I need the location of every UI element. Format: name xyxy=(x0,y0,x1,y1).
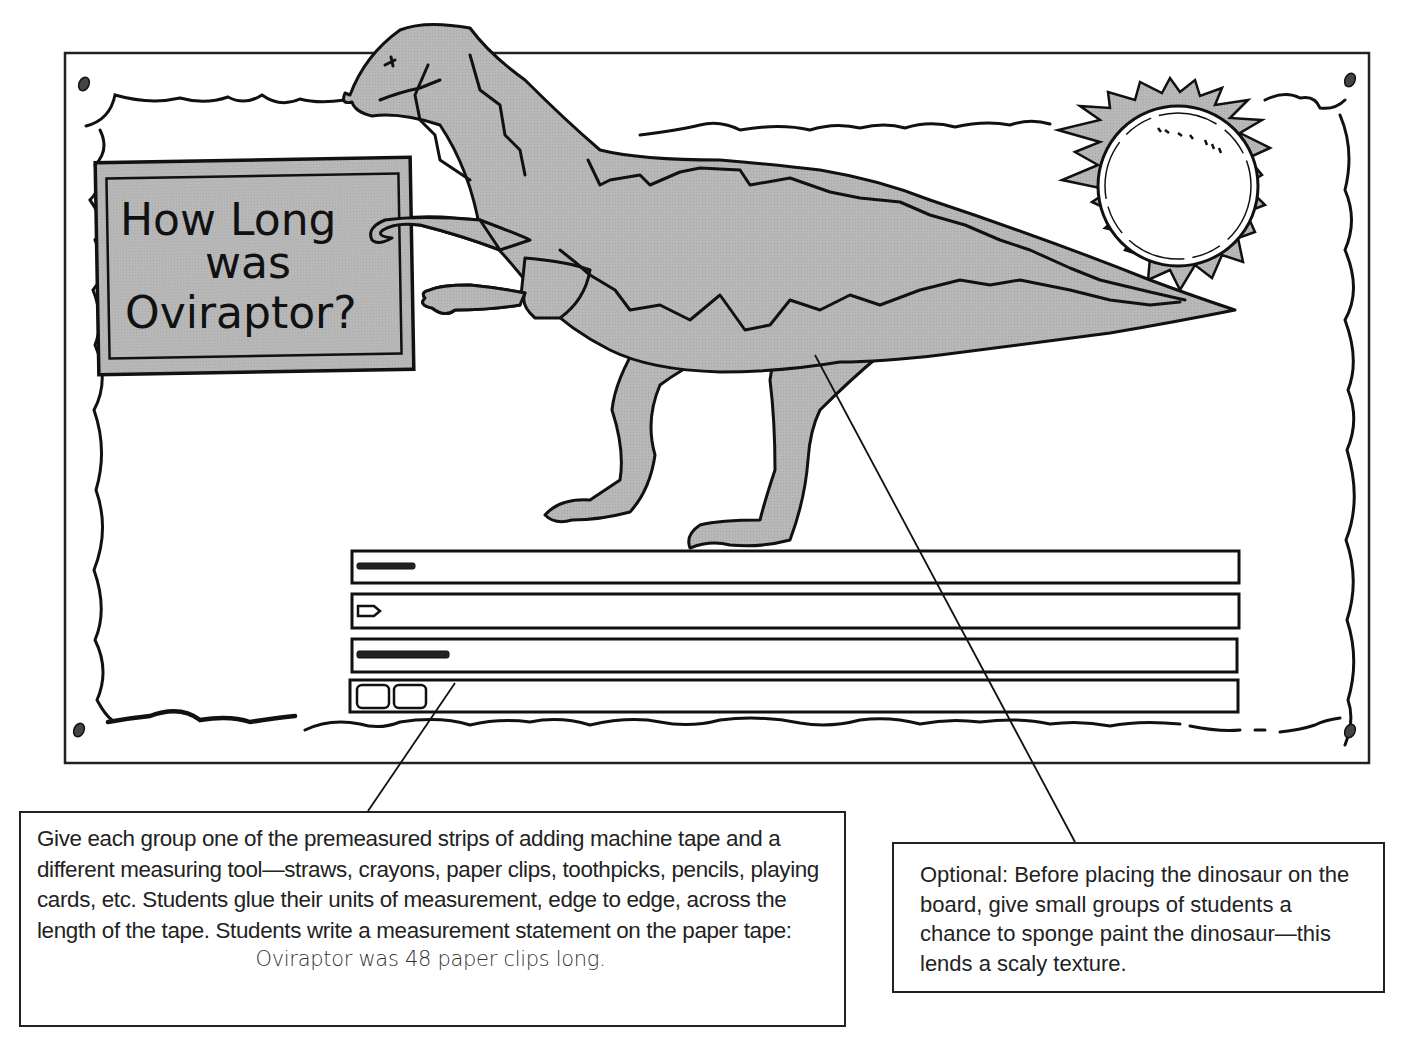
strip-playing-cards xyxy=(350,680,1238,712)
instructions-callout: Give each group one of the premeasured s… xyxy=(19,811,846,1027)
sign-line-2: was xyxy=(205,237,291,288)
strip-straws xyxy=(352,551,1239,583)
optional-tip-callout: Optional: Before placing the dinosaur on… xyxy=(892,842,1385,993)
instructions-text: Give each group one of the premeasured s… xyxy=(37,826,819,943)
straw-icon xyxy=(357,563,415,569)
strip-paper-clips xyxy=(352,639,1237,672)
card-icon xyxy=(394,685,426,708)
card-icon xyxy=(357,685,389,708)
paper-clip-chain-icon xyxy=(357,651,449,658)
example-statement: Oviraptor was 48 paper clips long. xyxy=(37,947,824,971)
crayon-icon xyxy=(358,606,380,616)
sign-line-3: Oviraptor? xyxy=(125,287,357,338)
optional-tip-text: Optional: Before placing the dinosaur on… xyxy=(920,862,1349,976)
strip-crayons xyxy=(352,594,1239,628)
